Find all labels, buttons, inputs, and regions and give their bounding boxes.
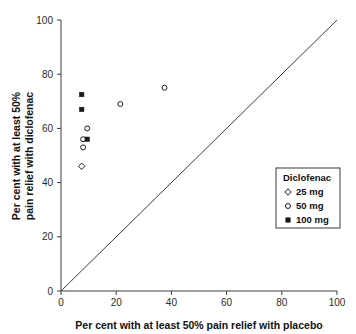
series-25-mg bbox=[78, 163, 85, 170]
data-point bbox=[78, 163, 85, 170]
y-tick-label: 100 bbox=[36, 15, 53, 26]
x-tick-label: 40 bbox=[166, 297, 178, 308]
scatter-plot-figure: 020406080100 020406080100 Per cent with … bbox=[0, 0, 356, 334]
x-tick-label: 60 bbox=[221, 297, 233, 308]
data-point bbox=[162, 85, 167, 90]
y-axis: 020406080100 bbox=[36, 15, 61, 297]
y-tick-label: 0 bbox=[47, 286, 53, 297]
y-tick-label: 40 bbox=[42, 177, 54, 188]
x-axis: 020406080100 bbox=[58, 291, 346, 308]
x-tick-label: 80 bbox=[276, 297, 288, 308]
plot-canvas: 020406080100 020406080100 Per cent with … bbox=[0, 0, 356, 334]
data-points-layer bbox=[78, 85, 167, 169]
data-point bbox=[85, 137, 89, 141]
legend-entry-label: 25 mg bbox=[296, 186, 324, 197]
y-tick-label: 60 bbox=[42, 123, 54, 134]
legend-title: Diclofenac bbox=[283, 172, 331, 183]
line-of-equality bbox=[61, 20, 337, 291]
data-point bbox=[79, 92, 83, 96]
y-axis-title-line2: pain relief with diclofenac bbox=[23, 92, 35, 221]
x-tick-label: 100 bbox=[329, 297, 346, 308]
legend-marker-filled-square bbox=[286, 218, 290, 222]
series-50-mg bbox=[81, 85, 167, 150]
data-point bbox=[85, 126, 90, 131]
data-point bbox=[118, 102, 123, 107]
x-axis-title: Per cent with at least 50% pain relief w… bbox=[75, 319, 322, 331]
x-tick-label: 0 bbox=[58, 297, 64, 308]
y-tick-label: 20 bbox=[42, 231, 54, 242]
legend-entry-label: 100 mg bbox=[296, 214, 329, 225]
series-100-mg bbox=[79, 92, 89, 141]
data-point bbox=[79, 107, 83, 111]
x-tick-label: 20 bbox=[111, 297, 123, 308]
y-axis-title-line1: Per cent with at least 50% bbox=[10, 91, 22, 220]
y-tick-label: 80 bbox=[42, 69, 54, 80]
y-axis-title: Per cent with at least 50% pain relief w… bbox=[10, 91, 35, 220]
legend-entry-label: 50 mg bbox=[296, 200, 324, 211]
x-axis-title-text: Per cent with at least 50% pain relief w… bbox=[75, 319, 322, 331]
data-point bbox=[81, 145, 86, 150]
legend[interactable]: Diclofenac 25 mg50 mg100 mg bbox=[276, 168, 340, 228]
